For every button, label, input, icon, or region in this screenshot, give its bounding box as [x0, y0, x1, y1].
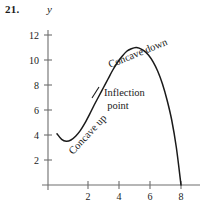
x-tick-label-8: 8 [179, 191, 184, 202]
y-tick-label-6: 6 [34, 105, 39, 116]
annotation-concave-down: Concave down [107, 36, 170, 70]
x-tick-label-4: 4 [117, 191, 122, 202]
y-tick-label-8: 8 [34, 80, 39, 91]
y-tick-label-12: 12 [29, 30, 39, 41]
annotation-inflection-line2: point [107, 100, 129, 111]
x-tick-label-2: 2 [86, 191, 91, 202]
y-tick-label-4: 4 [34, 130, 39, 141]
figure-container: 21. y 12 10 8 6 4 2 2 4 [0, 0, 209, 205]
plot-svg: 12 10 8 6 4 2 2 4 6 8 Concave up Concave… [0, 0, 209, 205]
function-curve [57, 47, 181, 185]
annotation-inflection-line1: Inflection [104, 87, 146, 98]
y-tick-label-2: 2 [34, 155, 39, 166]
y-tick-label-10: 10 [29, 55, 39, 66]
x-tick-label-6: 6 [148, 191, 153, 202]
